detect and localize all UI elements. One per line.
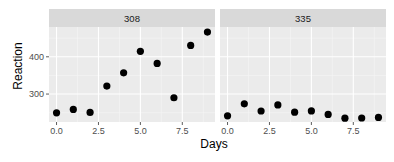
x-tick-label: 2.5 — [92, 126, 105, 136]
data-point — [274, 101, 281, 108]
x-axis-title: Days — [200, 137, 227, 151]
data-point — [204, 28, 211, 35]
data-point — [103, 82, 110, 89]
data-point — [154, 60, 161, 67]
plot-background — [220, 27, 386, 122]
x-tick-label: 5.0 — [134, 126, 147, 136]
data-point — [187, 42, 194, 49]
faceted-scatter-chart: 3080.02.55.07.54003003350.02.55.07.5 Day… — [0, 0, 394, 162]
data-point — [308, 107, 315, 114]
y-tick-label: 300 — [29, 89, 44, 99]
data-point — [86, 109, 93, 116]
y-axis-title: Reaction — [11, 42, 25, 89]
data-point — [224, 112, 231, 119]
data-point — [257, 107, 264, 114]
data-point — [137, 48, 144, 55]
data-point — [341, 115, 348, 122]
facet-panel-335: 3350.02.55.07.5 — [220, 9, 386, 136]
x-tick-label: 2.5 — [263, 126, 276, 136]
x-tick-label: 0.0 — [50, 126, 63, 136]
y-tick-label: 400 — [29, 52, 44, 62]
data-point — [358, 114, 365, 121]
data-point — [170, 94, 177, 101]
data-point — [375, 114, 382, 121]
x-tick-label: 5.0 — [305, 126, 318, 136]
data-point — [241, 100, 248, 107]
data-point — [120, 69, 127, 76]
data-point — [53, 109, 60, 116]
data-point — [291, 109, 298, 116]
facet-strip-label: 308 — [124, 13, 140, 24]
facet-strip-label: 335 — [295, 13, 311, 24]
facet-panel-308: 3080.02.55.07.5400300 — [29, 9, 215, 136]
data-point — [325, 111, 332, 118]
x-tick-label: 7.5 — [347, 126, 360, 136]
data-point — [70, 106, 77, 113]
x-tick-label: 0.0 — [221, 126, 234, 136]
x-tick-label: 7.5 — [176, 126, 189, 136]
